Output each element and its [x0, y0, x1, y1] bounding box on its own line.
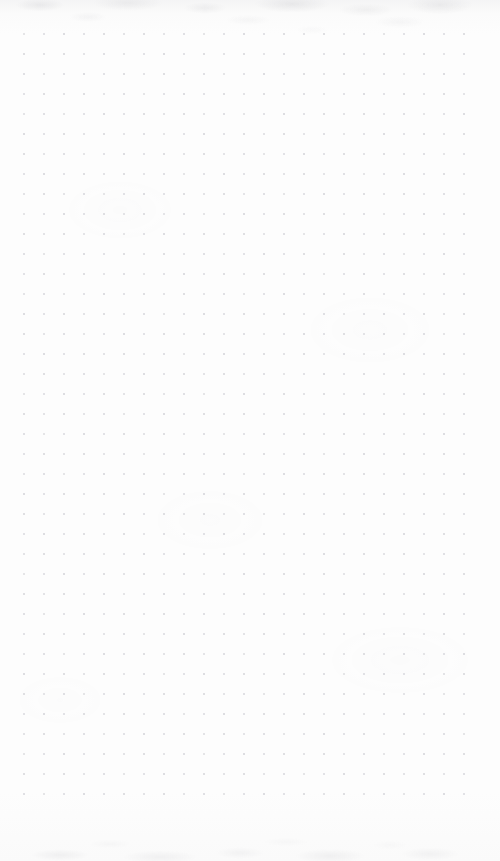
dot-grid-page: [0, 0, 500, 861]
page-content-area[interactable]: [24, 34, 474, 795]
